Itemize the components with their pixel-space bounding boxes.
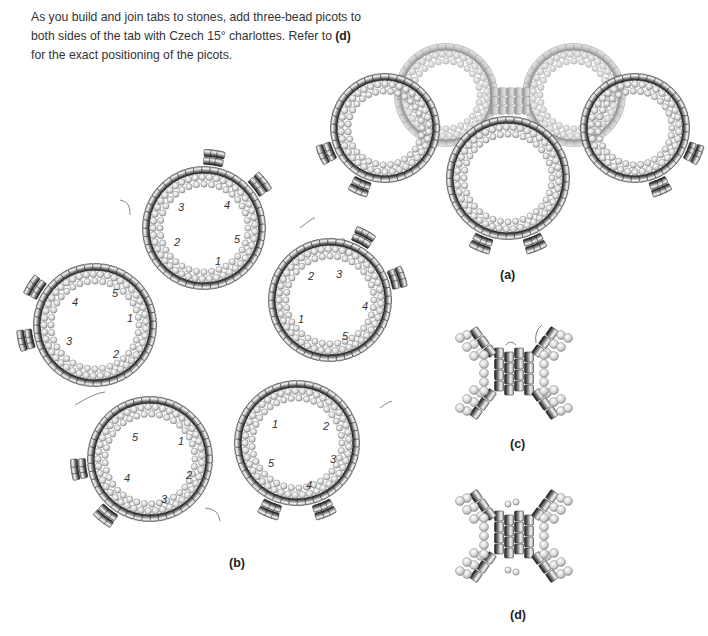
position-number: 2 xyxy=(307,270,314,282)
figure-d-label: (d) xyxy=(510,608,526,622)
position-number: 4 xyxy=(72,296,78,308)
figure-c-tab xyxy=(456,325,573,420)
position-number: 4 xyxy=(124,472,130,484)
bezel-ring xyxy=(446,116,569,254)
bezel-ring: 12345 xyxy=(142,149,272,289)
position-number: 2 xyxy=(173,236,180,248)
position-number: 2 xyxy=(322,420,329,432)
position-number: 4 xyxy=(306,479,312,491)
position-number: 1 xyxy=(215,255,221,267)
position-number: 3 xyxy=(336,268,343,280)
position-number: 2 xyxy=(112,348,119,360)
position-number: 5 xyxy=(112,287,119,299)
bezel-ring: 12345 xyxy=(235,380,360,520)
thread-line xyxy=(205,508,220,521)
position-number: 3 xyxy=(161,493,168,505)
thread-line xyxy=(75,392,105,405)
thread-line xyxy=(380,401,392,408)
thread-line xyxy=(300,218,315,228)
position-number: 4 xyxy=(362,300,368,312)
figure-d-tab-with-picots xyxy=(456,489,573,582)
position-number: 2 xyxy=(185,469,192,481)
figure-b-label: (b) xyxy=(229,556,245,570)
position-number: 5 xyxy=(342,330,349,342)
bezel-ring xyxy=(316,74,440,198)
position-number: 5 xyxy=(234,233,241,245)
thread-line xyxy=(120,200,130,215)
position-number: 3 xyxy=(66,335,73,347)
position-number: 1 xyxy=(178,435,184,447)
beadwork-diagram: 1234512345123451234512345 xyxy=(0,0,708,636)
position-number: 1 xyxy=(127,312,133,324)
position-number: 1 xyxy=(298,313,304,325)
bezel-ring: 12345 xyxy=(70,396,212,527)
position-number: 5 xyxy=(132,431,139,443)
position-number: 5 xyxy=(268,457,275,469)
position-number: 3 xyxy=(330,453,337,465)
position-number: 3 xyxy=(178,201,185,213)
figure-b-rings: 1234512345123451234512345 xyxy=(17,149,408,527)
bezel-ring: 12345 xyxy=(268,226,407,361)
figure-a-label: (a) xyxy=(500,268,515,282)
position-number: 1 xyxy=(272,418,278,430)
bezel-ring: 12345 xyxy=(17,263,157,386)
position-number: 4 xyxy=(224,199,230,211)
figure-c-label: (c) xyxy=(510,437,525,451)
